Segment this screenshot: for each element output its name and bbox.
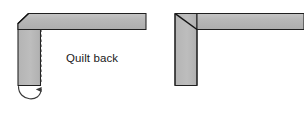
quilt-binding-diagram: Quilt back — [0, 0, 304, 114]
diagram-canvas: Quilt back — [0, 0, 304, 114]
folded-vertical-strip — [175, 14, 197, 86]
unfolded-vertical-strip — [18, 24, 41, 86]
unfolded-horizontal-strip — [18, 14, 146, 30]
quilt-back-label: Quilt back — [66, 52, 118, 64]
